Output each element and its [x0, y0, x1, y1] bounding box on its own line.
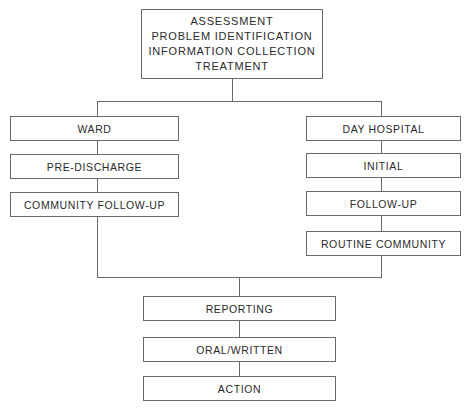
label-routine-community: ROUTINE COMMUNITY	[321, 238, 446, 250]
box-oral-written: ORAL/WRITTEN	[143, 337, 336, 362]
label-pre-discharge: PRE-DISCHARGE	[47, 161, 142, 173]
top-line-information-collection: INFORMATION COLLECTION	[148, 44, 315, 59]
label-initial: INITIAL	[364, 160, 404, 172]
top-line-treatment: TREATMENT	[195, 59, 269, 74]
label-day-hospital: DAY HOSPITAL	[343, 123, 425, 135]
box-follow-up: FOLLOW-UP	[306, 191, 461, 216]
label-oral-written: ORAL/WRITTEN	[196, 344, 283, 356]
label-ward: WARD	[77, 123, 111, 135]
box-initial: INITIAL	[306, 153, 461, 178]
box-pre-discharge: PRE-DISCHARGE	[10, 154, 179, 179]
box-day-hospital: DAY HOSPITAL	[306, 116, 461, 141]
box-community-follow-up: COMMUNITY FOLLOW-UP	[10, 192, 179, 217]
top-line-problem-identification: PROBLEM IDENTIFICATION	[151, 29, 312, 44]
connector-merge-down	[239, 277, 240, 297]
box-routine-community: ROUTINE COMMUNITY	[306, 231, 461, 256]
box-action: ACTION	[143, 376, 336, 401]
box-reporting: REPORTING	[143, 296, 336, 321]
connector-split-horizontal	[97, 101, 382, 102]
top-line-assessment: ASSESSMENT	[190, 14, 273, 29]
label-follow-up: FOLLOW-UP	[350, 198, 418, 210]
label-action: ACTION	[218, 383, 261, 395]
label-reporting: REPORTING	[206, 303, 274, 315]
label-community-follow-up: COMMUNITY FOLLOW-UP	[24, 199, 165, 211]
top-box: ASSESSMENT PROBLEM IDENTIFICATION INFORM…	[141, 9, 323, 79]
box-ward: WARD	[10, 116, 179, 141]
connector-top-down	[232, 79, 233, 101]
